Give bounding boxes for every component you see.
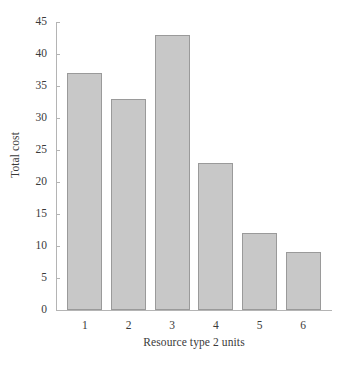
y-tick-label: 40 [36, 46, 48, 61]
y-tick-label: 5 [41, 270, 47, 285]
x-tick-label: 4 [196, 318, 236, 332]
x-axis-line [56, 310, 332, 311]
x-axis-title-label: Resource type 2 units [143, 336, 244, 348]
plot-area: 051015202530354045 123456 [56, 22, 332, 310]
x-tick-label: 6 [283, 318, 323, 332]
y-tick-label: 10 [36, 238, 48, 253]
y-tick-label: 0 [41, 302, 47, 317]
y-axis-title-label: Total cost [9, 132, 21, 178]
x-tick-label: 1 [65, 318, 105, 332]
bar [242, 233, 277, 310]
y-axis-title: Total cost [4, 0, 26, 310]
y-tick-label: 25 [36, 142, 48, 157]
bar-chart-figure: Total cost 051015202530354045 123456 Res… [0, 0, 343, 369]
bars-group [57, 22, 332, 310]
bar [155, 35, 190, 310]
x-axis-title: Resource type 2 units [56, 336, 332, 348]
y-tick-label: 35 [36, 78, 48, 93]
y-tick-label: 30 [36, 110, 48, 125]
y-tick-label: 45 [36, 14, 48, 29]
x-tick-label: 5 [240, 318, 280, 332]
bar [67, 73, 102, 310]
y-tick-label: 15 [36, 206, 48, 221]
x-tick-label: 3 [152, 318, 192, 332]
y-tick-label: 20 [36, 174, 48, 189]
bar [198, 163, 233, 310]
y-tick-mark [56, 310, 60, 311]
bar [111, 99, 146, 310]
bar [286, 252, 321, 310]
x-tick-label: 2 [109, 318, 149, 332]
